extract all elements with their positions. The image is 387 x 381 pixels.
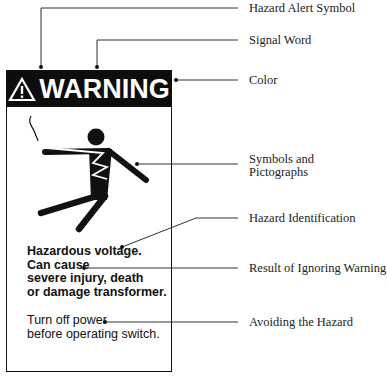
- label-symbols-pictographs: Symbols and Pictographs: [249, 153, 314, 179]
- label-color: Color: [249, 74, 277, 87]
- label-hazard-identification: Hazard Identification: [249, 212, 356, 225]
- label-avoiding: Avoiding the Hazard: [249, 316, 353, 329]
- label-line: Pictographs: [249, 166, 314, 179]
- label-signal-word: Signal Word: [249, 34, 311, 47]
- label-hazard-alert-symbol: Hazard Alert Symbol: [249, 2, 355, 15]
- label-result: Result of Ignoring Warning: [249, 262, 386, 275]
